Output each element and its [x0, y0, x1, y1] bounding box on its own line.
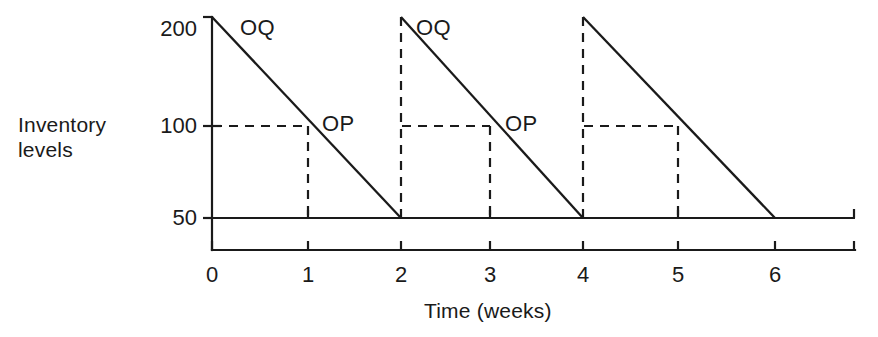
x-tick-label-4: 4: [567, 263, 599, 287]
y-tick-label-100: 100: [152, 114, 197, 138]
x-axis-title: Time (weeks): [424, 298, 552, 323]
y-axis-title: Inventorylevels: [18, 112, 158, 162]
x-tick-label-5: 5: [662, 263, 694, 287]
y-tick-label-200: 200: [152, 17, 197, 41]
annotation-order-point-1: OP: [322, 112, 354, 136]
x-tick-label-1: 1: [292, 263, 324, 287]
x-tick-label-6: 6: [759, 263, 791, 287]
x-tick-label-2: 2: [385, 263, 417, 287]
inventory-sawtooth-chart: Inventorylevels Time (weeks) 200 100 50 …: [0, 0, 878, 337]
inventory-depletion-cycle-2: [401, 17, 583, 218]
y-axis-title-line-1: Inventory: [18, 112, 158, 137]
inventory-depletion-cycle-3: [583, 17, 775, 218]
y-tick-label-50: 50: [152, 206, 197, 230]
y-axis-title-line-2: levels: [18, 137, 158, 162]
chart-canvas: [0, 0, 878, 337]
annotation-order-quantity-1: OQ: [240, 16, 275, 40]
x-tick-label-0: 0: [196, 263, 228, 287]
annotation-order-quantity-2: OQ: [416, 16, 451, 40]
inventory-depletion-cycle-1: [212, 17, 401, 218]
x-tick-label-3: 3: [474, 263, 506, 287]
annotation-order-point-2: OP: [505, 112, 537, 136]
